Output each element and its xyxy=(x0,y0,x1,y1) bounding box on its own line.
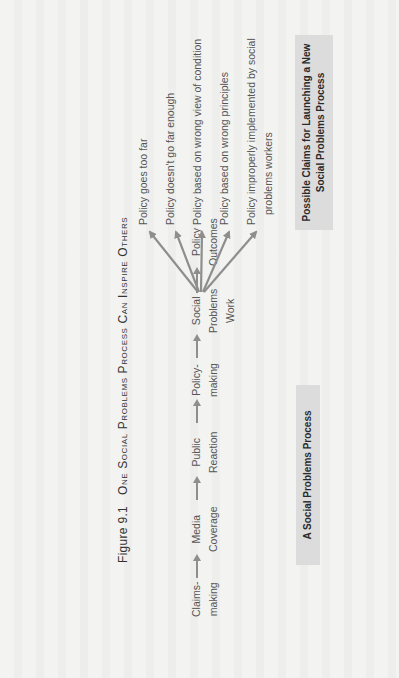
claim-item: Policy goes too far xyxy=(135,139,152,225)
claim-text: problems workers xyxy=(260,38,277,225)
process-box-label: A Social Problems Process xyxy=(301,410,315,539)
claim-text: Policy based on wrong view of condition xyxy=(191,39,203,225)
rotated-figure: Figure 9.1 One Social Problems Process C… xyxy=(0,0,399,678)
claim-text: Policy goes too far xyxy=(137,139,149,225)
process-box: A Social Problems Process xyxy=(296,385,320,565)
claim-text: Policy based on wrong principles xyxy=(218,72,230,225)
claim-item: Policy based on wrong view of condition xyxy=(189,39,206,225)
claim-item: Policy doesn't go far enough xyxy=(162,93,179,225)
claims-box-label: Social Problems Process xyxy=(314,73,328,193)
claim-item: Policy improperly implemented by social … xyxy=(243,38,277,225)
claim-text: Policy improperly implemented by social xyxy=(243,38,260,225)
claim-text: Policy doesn't go far enough xyxy=(164,93,176,225)
claims-box-label: Possible Claims for Launching a New xyxy=(300,44,314,222)
claim-item: Policy based on wrong principles xyxy=(216,72,233,225)
claims-box: Possible Claims for Launching a New Soci… xyxy=(295,35,333,230)
